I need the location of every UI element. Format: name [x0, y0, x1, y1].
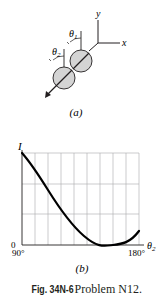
- chart-x-end-label: 180°: [128, 248, 146, 258]
- chart-x-start-label: 90°: [12, 248, 25, 258]
- figure-a-diagram: y x θ1 θ2 (a): [45, 8, 127, 119]
- chart-gridlines: [22, 153, 139, 245]
- figure-caption: Fig. 34N-6 Problem N12.: [0, 282, 163, 297]
- y-axis-label: y: [95, 8, 101, 19]
- figure-a-label: (a): [70, 106, 83, 119]
- figure-number: Fig. 34N-6: [32, 283, 74, 295]
- chart-x-label: θ2: [147, 240, 156, 253]
- polarizer-1-axis-ext: [89, 43, 98, 51]
- x-axis-label: x: [121, 37, 127, 48]
- theta1-label: θ1: [69, 28, 77, 41]
- theta2-dash: [49, 59, 51, 61]
- theta1-dash: [67, 42, 69, 44]
- theta2-label: θ2: [52, 46, 61, 59]
- figure-svg: y x θ1 θ2 (a): [0, 0, 163, 298]
- figure-b-chart: I 0 90° 180° θ2 (b): [11, 140, 156, 275]
- figure-b-label: (b): [76, 262, 89, 275]
- intensity-curve: [22, 153, 139, 246]
- caption-text: Problem N12.: [75, 282, 142, 296]
